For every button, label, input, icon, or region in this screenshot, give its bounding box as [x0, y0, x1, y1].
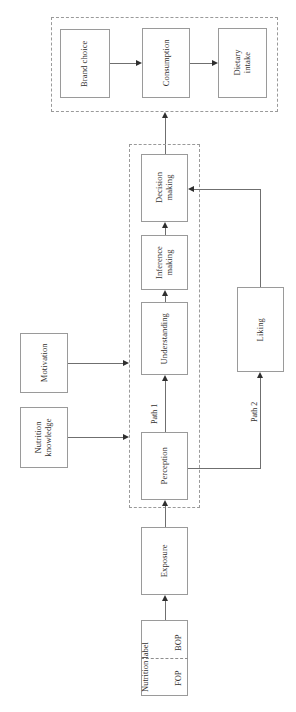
edge-understanding-inference [165, 296, 166, 302]
node-liking-label: Liking [256, 318, 266, 341]
arrowhead-consumption-dietaryintake [212, 60, 218, 66]
node-understanding-label: Understanding [160, 313, 170, 364]
arrowhead-liking-decision [188, 186, 194, 192]
arrowhead-understanding-inference [162, 290, 168, 296]
edge-nutritionlabel-exposure [165, 601, 166, 620]
node-liking[interactable]: Liking [237, 287, 284, 372]
node-nutrition-knowledge-label: Nutrition knowledge [34, 415, 53, 461]
node-nutrition-label-bop: BOP [173, 634, 183, 651]
node-decision-making[interactable]: Decision making [141, 154, 188, 222]
arrowhead-nutritionlabel-exposure [162, 595, 168, 601]
node-exposure[interactable]: Exposure [141, 527, 188, 595]
node-consumption[interactable]: Consumption [142, 28, 190, 98]
node-nutrition-knowledge[interactable]: Nutrition knowledge [20, 407, 68, 468]
arrowhead-inference-decision [162, 222, 168, 228]
edge-perception-understanding [165, 381, 166, 432]
node-inference-making-label: Inference making [155, 240, 174, 285]
node-decision-making-label: Decision making [155, 166, 174, 211]
edge-brandchoice-consumption [110, 63, 136, 64]
flowchart-diagram: Brand choice Consumption Dietary intake … [0, 0, 296, 712]
arrowhead-perception-liking [257, 372, 263, 378]
node-dietary-intake-label: Dietary intake [233, 40, 252, 87]
arrowhead-perception-understanding [162, 375, 168, 381]
node-understanding[interactable]: Understanding [141, 302, 188, 375]
node-perception-label: Perception [160, 447, 170, 484]
arrowhead-brandchoice-consumption [136, 60, 142, 66]
node-dietary-intake[interactable]: Dietary intake [218, 28, 267, 98]
arrowhead-exposure-perception [162, 500, 168, 506]
node-brand-choice[interactable]: Brand choice [60, 29, 110, 98]
node-brand-choice-label: Brand choice [80, 39, 90, 87]
node-motivation[interactable]: Motivation [20, 333, 68, 393]
edge-perception-liking-vertical [260, 378, 261, 468]
label-path-1: Path 1 [150, 404, 159, 424]
node-perception[interactable]: Perception [141, 432, 188, 500]
arrowhead-motivation-understanding [123, 360, 129, 366]
edge-inference-decision [165, 228, 166, 235]
edge-exposure-perception [165, 506, 166, 527]
node-inference-making[interactable]: Inference making [141, 235, 188, 290]
edge-liking-decision-vertical [260, 189, 261, 287]
node-motivation-label: Motivation [39, 344, 49, 383]
label-path-2: Path 2 [250, 402, 259, 422]
edge-consumption-dietaryintake [190, 63, 212, 64]
node-exposure-label: Exposure [160, 545, 170, 578]
edge-perception-liking-horizontal [188, 468, 261, 469]
arrowhead-knowledge-perception [123, 434, 129, 440]
edge-motivation-understanding [68, 363, 123, 364]
arrowhead-decisionmaking-consumption [162, 112, 168, 118]
node-nutrition-label-title: Nutrition label [140, 642, 150, 692]
node-consumption-label: Consumption [161, 40, 171, 87]
edge-liking-decision-horizontal [194, 189, 261, 190]
node-nutrition-label-fop: FOP [173, 670, 183, 686]
edge-knowledge-perception [68, 437, 123, 438]
